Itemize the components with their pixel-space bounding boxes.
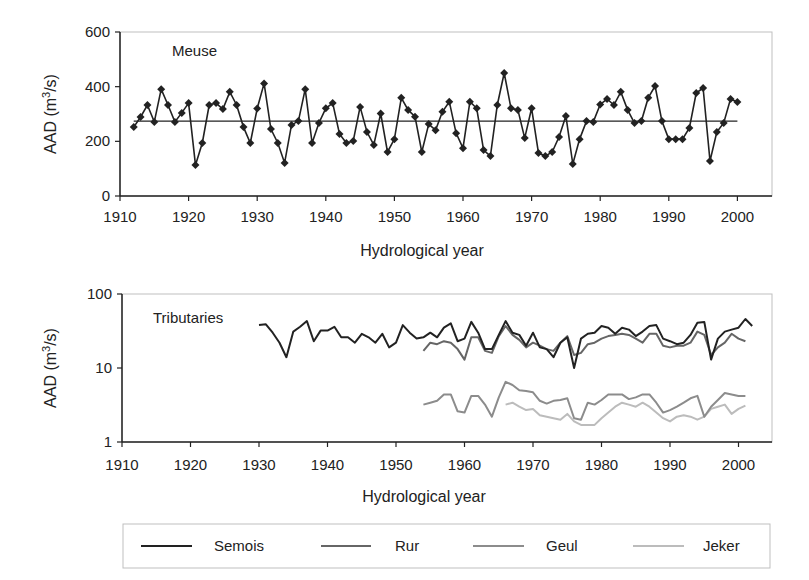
y-tick-label: 0	[102, 187, 110, 204]
y-tick-label: 100	[87, 285, 112, 302]
x-tick-label: 1980	[584, 208, 617, 225]
x-tick-label: 1930	[241, 208, 274, 225]
meuse-y-ticks: 0200400600	[85, 23, 120, 204]
x-tick-label: 1990	[652, 208, 685, 225]
y-tick-label: 1	[104, 433, 112, 450]
x-tick-label: 1950	[379, 456, 412, 473]
meuse-chart: 0200400600 19101920193019401950196019701…	[40, 23, 772, 259]
x-tick-label: 1920	[174, 456, 207, 473]
x-tick-label: 1940	[309, 208, 342, 225]
meuse-y-axis-title: AAD (m3/s)	[40, 74, 59, 154]
legend-label-rur: Rur	[395, 537, 419, 554]
y-tick-label: 10	[95, 359, 112, 376]
x-tick-label: 1930	[242, 456, 275, 473]
meuse-x-ticks: 1910192019301940195019601970198019902000	[103, 196, 754, 225]
x-tick-label: 1950	[378, 208, 411, 225]
meuse-plot-area	[120, 32, 772, 196]
tributaries-panel-label: Tributaries	[153, 309, 223, 326]
x-tick-label: 2000	[722, 456, 755, 473]
x-tick-label: 1920	[172, 208, 205, 225]
x-tick-label: 1960	[448, 456, 481, 473]
legend-label-semois: Semois	[214, 537, 264, 554]
meuse-panel-label: Meuse	[172, 42, 217, 59]
tributaries-x-ticks: 1910192019301940195019601970198019902000	[105, 442, 755, 473]
tributaries-y-axis-title: AAD (m3/s)	[40, 328, 59, 408]
figure: 0200400600 19101920193019401950196019701…	[0, 0, 809, 580]
tributaries-chart: 110100 191019201930194019501960197019801…	[40, 285, 772, 505]
x-tick-label: 1910	[105, 456, 138, 473]
x-tick-label: 2000	[721, 208, 754, 225]
x-tick-label: 1970	[516, 456, 549, 473]
x-tick-label: 1940	[311, 456, 344, 473]
x-tick-label: 1910	[103, 208, 136, 225]
x-tick-label: 1970	[515, 208, 548, 225]
x-tick-label: 1980	[585, 456, 618, 473]
y-tick-label: 400	[85, 78, 110, 95]
legend-label-jeker: Jeker	[703, 537, 740, 554]
x-tick-label: 1990	[653, 456, 686, 473]
legend: Semois Rur Geul Jeker	[123, 524, 770, 568]
meuse-x-axis-title: Hydrological year	[360, 242, 484, 259]
tributaries-x-axis-title: Hydrological year	[362, 488, 486, 505]
x-tick-label: 1960	[446, 208, 479, 225]
y-tick-label: 600	[85, 23, 110, 40]
legend-label-geul: Geul	[546, 537, 578, 554]
y-tick-label: 200	[85, 132, 110, 149]
tributaries-y-ticks: 110100	[87, 285, 122, 450]
